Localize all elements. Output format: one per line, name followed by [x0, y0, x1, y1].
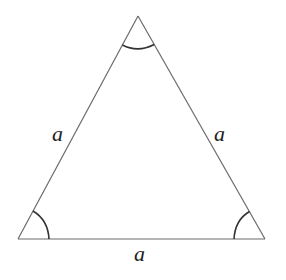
side-label-right: a: [214, 121, 225, 146]
triangle-diagram: a a a: [0, 0, 286, 280]
side-label-left: a: [52, 121, 63, 146]
angle-arc-bottom-left: [33, 211, 49, 239]
side-right: [138, 16, 265, 239]
triangle-svg: a a a: [0, 0, 286, 280]
angle-arc-bottom-right: [234, 212, 250, 240]
angle-arc-top: [122, 45, 154, 49]
side-left: [18, 16, 138, 239]
side-label-bottom: a: [134, 241, 145, 266]
